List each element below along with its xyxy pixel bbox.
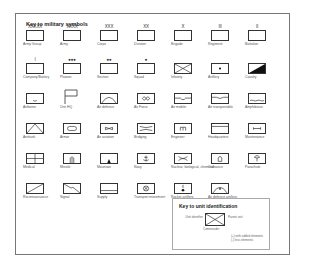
symbol-air-mobile: Air mobile: [171, 87, 209, 113]
symbol-unit-hq: Unit HQ: [60, 87, 98, 113]
symbol-squad: ●Squad: [134, 57, 172, 83]
symbol-medical: Medical: [23, 147, 61, 173]
airmobile-icon: [174, 93, 192, 104]
symbol-label: Reconnaissance: [23, 195, 48, 199]
box-icon: [100, 63, 118, 74]
symbol-section: ●●Section: [97, 57, 135, 83]
symbol-label: Corps: [97, 42, 106, 46]
symbol-platoon: ●●●Platoon: [60, 57, 98, 83]
symbol-airborne: Airborne: [23, 87, 61, 113]
artillery-icon: [211, 63, 229, 74]
symbol-label: Infantry: [171, 75, 182, 79]
recon-icon: [26, 183, 44, 194]
box-icon: [211, 30, 229, 41]
symbol-antitank: Antitank: [23, 117, 61, 143]
amphibious-icon: [248, 93, 266, 104]
symbol-division: XXDivision: [134, 24, 172, 50]
echelon-mark: XX: [137, 24, 155, 29]
symbol-signal: Signal: [60, 177, 98, 203]
missile-icon: [63, 153, 81, 164]
echelon-mark: II: [248, 24, 266, 29]
symbol-headquarters: Headquarters: [208, 117, 246, 143]
box-icon: [63, 63, 81, 74]
transport-icon: [137, 183, 155, 194]
symbol-label: Parachute: [245, 165, 260, 169]
box-icon: [174, 30, 192, 41]
symbol-label: Air Force: [134, 105, 148, 109]
symbol-army: XXXXArmy: [60, 24, 98, 50]
hq-icon: [211, 123, 229, 134]
symbol-air-force: Air Force: [134, 87, 172, 113]
supply-icon: [100, 183, 118, 194]
symbol-amphibious: Amphibious: [245, 87, 283, 113]
symbol-label: Air defence: [97, 105, 114, 109]
aviation-icon: [100, 123, 118, 134]
unit-identifier-label: Unit identifier: [183, 216, 203, 220]
symbol-label: Unit HQ: [60, 105, 72, 109]
symbol-company-battery: ICompany/Battery: [23, 57, 61, 83]
symbol-label: Squad: [134, 75, 144, 79]
echelon-mark: XXXX: [63, 24, 81, 29]
symbol-label: Headquarters: [208, 135, 229, 139]
armor-icon: [63, 123, 81, 134]
airtransport-icon: [211, 93, 229, 104]
symbol-reconnaissance: Reconnaissance: [23, 177, 61, 203]
mountain-icon: [100, 153, 118, 164]
symbol-label: Artillery: [208, 75, 219, 79]
box-icon: [26, 63, 44, 74]
symbol-label: Transport movement: [134, 195, 165, 199]
airborne-icon: [26, 93, 44, 104]
symbol-label: Brigade: [171, 42, 183, 46]
echelon-mark: ●: [137, 57, 155, 62]
symbol-label: Missile: [60, 165, 70, 169]
symbol-bridging: Bridging: [134, 117, 172, 143]
note-less-elements: (-) less elements: [231, 239, 253, 243]
symbol-infantry: Infantry: [171, 57, 209, 83]
cavalry-icon: [248, 63, 266, 74]
symbol-parachute: Parachute: [245, 147, 283, 173]
symbol-label: Supply: [97, 195, 107, 199]
symbol-label: Division: [134, 42, 146, 46]
echelon-mark: ●●●: [63, 57, 81, 62]
symbol-label: Army Group: [23, 42, 41, 46]
box-icon: [248, 30, 266, 41]
box-icon: [100, 30, 118, 41]
echelon-mark: III: [211, 24, 229, 29]
symbol-supply: Supply: [97, 177, 135, 203]
symbol-label: Battalion: [245, 42, 258, 46]
box-icon: [26, 30, 44, 41]
symbol-label: Antitank: [23, 135, 35, 139]
symbol-label: Section: [97, 75, 108, 79]
symbol-missile: Missile: [60, 147, 98, 173]
parachute-icon: [248, 153, 266, 164]
flag-icon: [63, 89, 81, 104]
symbol-label: Signal: [60, 195, 69, 199]
symbol-regiment: IIIRegiment: [208, 24, 246, 50]
symbol-armor: Armor: [60, 117, 98, 143]
commander-label: Commander: [203, 228, 220, 232]
symbol-corps: XXXCorps: [97, 24, 135, 50]
symbol-battalion: IIBattalion: [245, 24, 283, 50]
box-icon: [63, 30, 81, 41]
infantry-icon: [174, 63, 192, 74]
signal-icon: [63, 183, 81, 194]
symbol-maintenance: Maintenance: [245, 117, 283, 143]
adartillery-icon: [211, 183, 229, 194]
symbol-nuclear-biological-chemical: Nuclear, biological, chemical: [171, 147, 209, 173]
medical-icon: [26, 153, 44, 164]
symbol-label: Ordnance: [208, 165, 223, 169]
symbol-label: Air aviation: [97, 135, 114, 139]
symbol-engineer: Engineer: [171, 117, 209, 143]
symbol-label: Engineer: [171, 135, 185, 139]
box-icon: [137, 63, 155, 74]
symbol-label: Regiment: [208, 42, 223, 46]
bridging-icon: [137, 123, 155, 134]
symbol-label: Cavalry: [245, 75, 257, 79]
unit-identification-key: Key to unit identification Unit identifi…: [172, 198, 270, 250]
symbol-label: Mountain: [97, 165, 111, 169]
symbol-artillery: Artillery: [208, 57, 246, 83]
airdefence-icon: [100, 93, 118, 104]
unit-key-infantry-icon: [205, 213, 225, 226]
echelon-mark: ●●: [100, 57, 118, 62]
echelon-mark: XXX: [100, 24, 118, 29]
